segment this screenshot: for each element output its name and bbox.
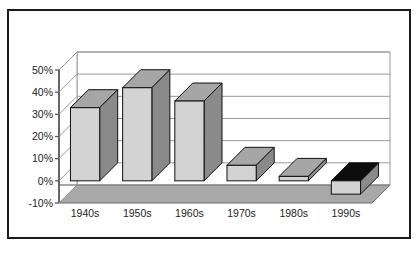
x-axis-label: 1970s [227,207,256,219]
bar-front-face [227,165,256,181]
x-axis-label: 1960s [175,207,204,219]
x-axis-labels: 1940s1950s1960s1970s1980s1990s [71,207,360,219]
chart-svg: 50%40%30%20%10%0%-10% 1940s1950s1960s197… [0,0,420,255]
x-axis-label: 1990s [332,207,361,219]
bar-1960s[interactable] [175,83,222,181]
y-axis-label: 0% [38,175,53,187]
y-axis-label: 10% [32,152,53,164]
y-axis-label: -10% [28,197,53,209]
bar-front-face [70,108,99,181]
y-axis-label: 30% [32,108,53,120]
bar-front-face [279,176,308,180]
bar-1950s[interactable] [123,70,170,181]
bar-front-face [123,88,152,181]
bar-front-face [175,101,204,181]
bar-chart-3d: 50%40%30%20%10%0%-10% 1940s1950s1960s197… [0,0,420,255]
y-axis-label: 50% [32,64,53,76]
x-axis-label: 1950s [123,207,152,219]
bar-1940s[interactable] [70,90,117,181]
x-axis-label: 1980s [279,207,308,219]
y-axis-label: 20% [32,130,53,142]
bar-side-face [152,70,170,181]
bar-front-face [331,181,360,194]
bar-side-face [204,83,222,181]
y-axis-label: 40% [32,86,53,98]
x-axis-label: 1940s [71,207,100,219]
